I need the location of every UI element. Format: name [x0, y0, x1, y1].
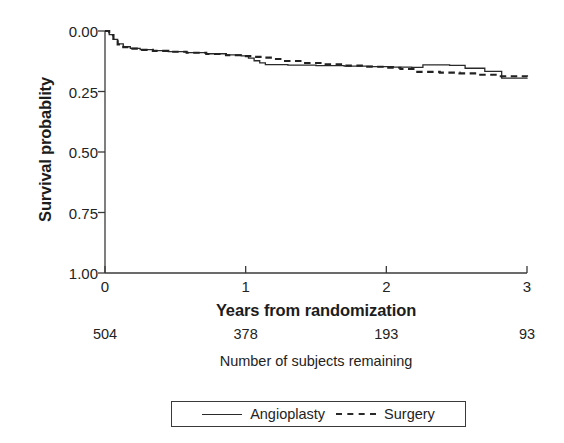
number-at-risk: 193 [356, 327, 416, 342]
legend-label-angioplasty: Angioplasty [250, 407, 325, 422]
legend-label-surgery: Surgery [384, 407, 435, 422]
legend-entry-surgery: Surgery [336, 407, 435, 422]
number-at-risk: 93 [497, 327, 557, 342]
numbers-at-risk-row: 50437819393 [0, 327, 564, 347]
series-line-surgery [105, 31, 527, 77]
x-tick-label: 0 [85, 279, 125, 294]
legend-entry-angioplasty: Angioplasty [202, 407, 325, 422]
dashed-line-icon [336, 413, 376, 415]
series-line-angioplasty [105, 31, 527, 79]
x-tick-label: 2 [366, 279, 406, 294]
x-axis-tick-labels: 0123 [0, 279, 564, 301]
solid-line-icon [202, 414, 242, 415]
numbers-at-risk-caption: Number of subjects remaining [105, 353, 527, 369]
x-axis-ticks [105, 266, 527, 273]
x-tick-label: 3 [507, 279, 547, 294]
survival-curve-figure: Survival probablity 1.000.750.500.250.00… [0, 0, 564, 443]
y-axis-ticks [98, 31, 105, 273]
number-at-risk: 378 [216, 327, 276, 342]
plot-area [0, 0, 564, 300]
number-at-risk: 504 [75, 327, 135, 342]
x-tick-label: 1 [226, 279, 266, 294]
legend: Angioplasty Surgery [171, 401, 466, 427]
x-axis-title: Years from randomization [105, 301, 527, 320]
